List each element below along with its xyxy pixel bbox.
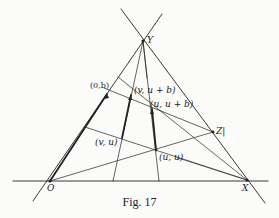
segment-vu-to-vub <box>122 95 131 138</box>
label-0b: (0,b) <box>90 82 109 90</box>
line-oz <box>50 132 213 181</box>
point-y <box>141 39 144 42</box>
label-uu: (u, u) <box>159 153 183 162</box>
label-uub: (u, u + b) <box>150 100 193 109</box>
label-x: X <box>242 184 248 193</box>
label-o: O <box>47 184 54 193</box>
label-y: Y <box>147 36 153 45</box>
point-x <box>245 178 248 181</box>
segment-uu-to-uub <box>152 109 156 150</box>
line-y-to-base-right <box>143 41 159 181</box>
leader-uu <box>178 158 247 180</box>
label-vub: (v, u + b) <box>134 86 176 95</box>
geometric-construction-diagram <box>0 0 279 218</box>
figure-17: Y O X Z| (0,b) (v, u + b) (u, u + b) (v,… <box>0 0 279 218</box>
point-z <box>212 131 215 134</box>
point-uu <box>155 149 158 152</box>
label-z: Z| <box>216 127 225 136</box>
figure-caption: Fig. 17 <box>0 195 279 210</box>
label-vu: (v, u) <box>95 138 118 147</box>
